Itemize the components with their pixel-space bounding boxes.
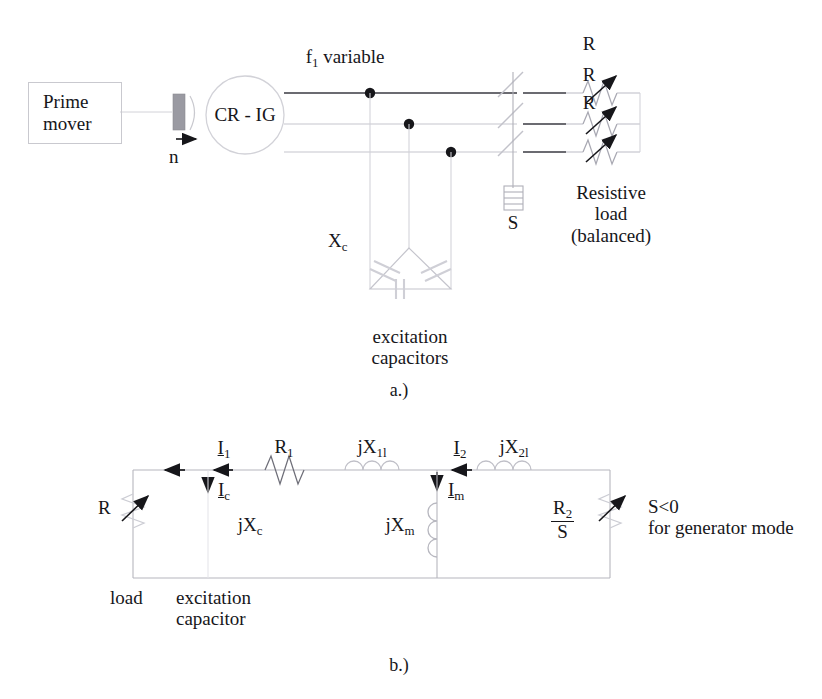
delta-triangle bbox=[370, 248, 451, 289]
current-label-i1: I1 bbox=[218, 437, 231, 461]
load-resistor-label-2: R bbox=[583, 64, 596, 85]
eq-load-resistor-label: R bbox=[98, 497, 111, 518]
magnetizing-reactance-label: jXm bbox=[385, 514, 414, 538]
switch-actuator-coil bbox=[504, 186, 523, 210]
stator-leakage-label: jX1l bbox=[357, 436, 386, 460]
current-label-i2: I2 bbox=[454, 437, 467, 461]
current-label-im: Im bbox=[448, 479, 464, 503]
rotor-leakage-label: jX2l bbox=[499, 436, 528, 460]
capacitor-drop-wires bbox=[333, 93, 451, 289]
shaft-coupling bbox=[173, 94, 185, 130]
eq-load-caption: load bbox=[110, 587, 143, 608]
load-resistor-label-1: R bbox=[583, 33, 596, 54]
figure-b-caption: b.) bbox=[389, 655, 409, 675]
eq-excitation-caption: excitation capacitor bbox=[176, 587, 251, 630]
prime-mover-label-line2: mover bbox=[36, 113, 92, 134]
phase-wires-a bbox=[284, 93, 517, 152]
phase-junction-dots bbox=[365, 88, 456, 157]
resistive-load-caption: Resistive load (balanced) bbox=[571, 182, 651, 246]
generator-mode-note: S<0 for generator mode bbox=[648, 496, 794, 539]
machine-label: CR - IG bbox=[214, 104, 275, 125]
eq-magnetizing-coil bbox=[428, 503, 437, 557]
excitation-capacitor-delta bbox=[370, 248, 451, 299]
shaft-speed-label: n bbox=[169, 146, 179, 167]
load-resistor-1 bbox=[566, 76, 640, 105]
eq-rotor-resistance bbox=[599, 494, 625, 528]
rotor-resistance-label: R2 S bbox=[551, 498, 574, 541]
capacitor-plate-left bbox=[370, 261, 400, 281]
current-label-ic: Ic bbox=[218, 479, 230, 503]
switch-label: S bbox=[508, 212, 519, 233]
figure-canvas: Prime mover n CR - IG f1 variable Xc exc… bbox=[0, 0, 822, 699]
capacitor-reactance-label: Xc bbox=[328, 230, 347, 254]
figure-a-caption: a.) bbox=[390, 380, 408, 400]
stator-resistance-label: R1 bbox=[274, 436, 293, 460]
prime-mover-label-line1: Prime bbox=[36, 91, 88, 112]
prime-mover-box: Prime mover bbox=[28, 82, 122, 144]
capacitive-reactance-label: jXc bbox=[238, 514, 263, 538]
excitation-capacitors-caption: excitation capacitors bbox=[371, 326, 448, 369]
resistive-load-bank bbox=[566, 76, 640, 164]
eq-load-resistor bbox=[122, 494, 148, 528]
frequency-label: f1 variable bbox=[306, 46, 385, 70]
eq-rotor-leakage-coil bbox=[477, 461, 531, 470]
prime-mover-shaft-group bbox=[120, 94, 196, 139]
load-resistor-label-3: R bbox=[583, 92, 596, 113]
load-resistor-3 bbox=[566, 135, 640, 164]
load-resistor-2 bbox=[566, 107, 640, 136]
eq-stator-leakage-coil bbox=[345, 461, 399, 470]
equivalent-circuit bbox=[122, 456, 625, 578]
